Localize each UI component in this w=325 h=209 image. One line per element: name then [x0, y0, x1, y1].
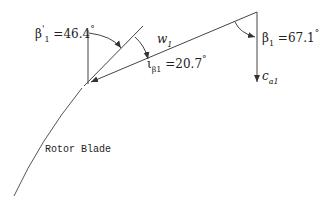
- w1-label: w1: [157, 33, 172, 45]
- beta1-prime-label: β'1 =46.4°: [35, 28, 95, 40]
- beta1-arc: [235, 22, 255, 37]
- rotor-blade-curve: [14, 88, 82, 196]
- incidence-arc: [135, 37, 148, 59]
- velocity-triangle-diagram: β'1 =46.4° w1 ιβ1 =20.7° β1 =67.1° ca1 R…: [0, 0, 325, 209]
- ca1-label: ca1: [262, 70, 279, 82]
- w1-vector: [91, 12, 257, 82]
- incidence-label: ιβ1 =20.7°: [147, 58, 207, 70]
- beta1-label: β1 =67.1°: [262, 32, 319, 44]
- rotor-blade-label: Rotor Blade: [45, 145, 111, 155]
